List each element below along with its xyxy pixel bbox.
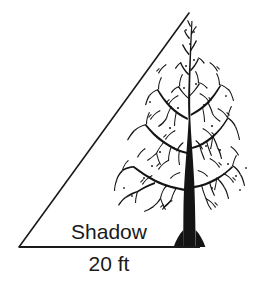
diagram-canvas: Shadow 20 ft: [0, 0, 271, 288]
shadow-label: Shadow: [71, 220, 148, 243]
figure-background: [0, 0, 271, 288]
tree-shadow-figure: Shadow 20 ft: [0, 0, 271, 288]
measurement-label: 20 ft: [89, 252, 130, 275]
